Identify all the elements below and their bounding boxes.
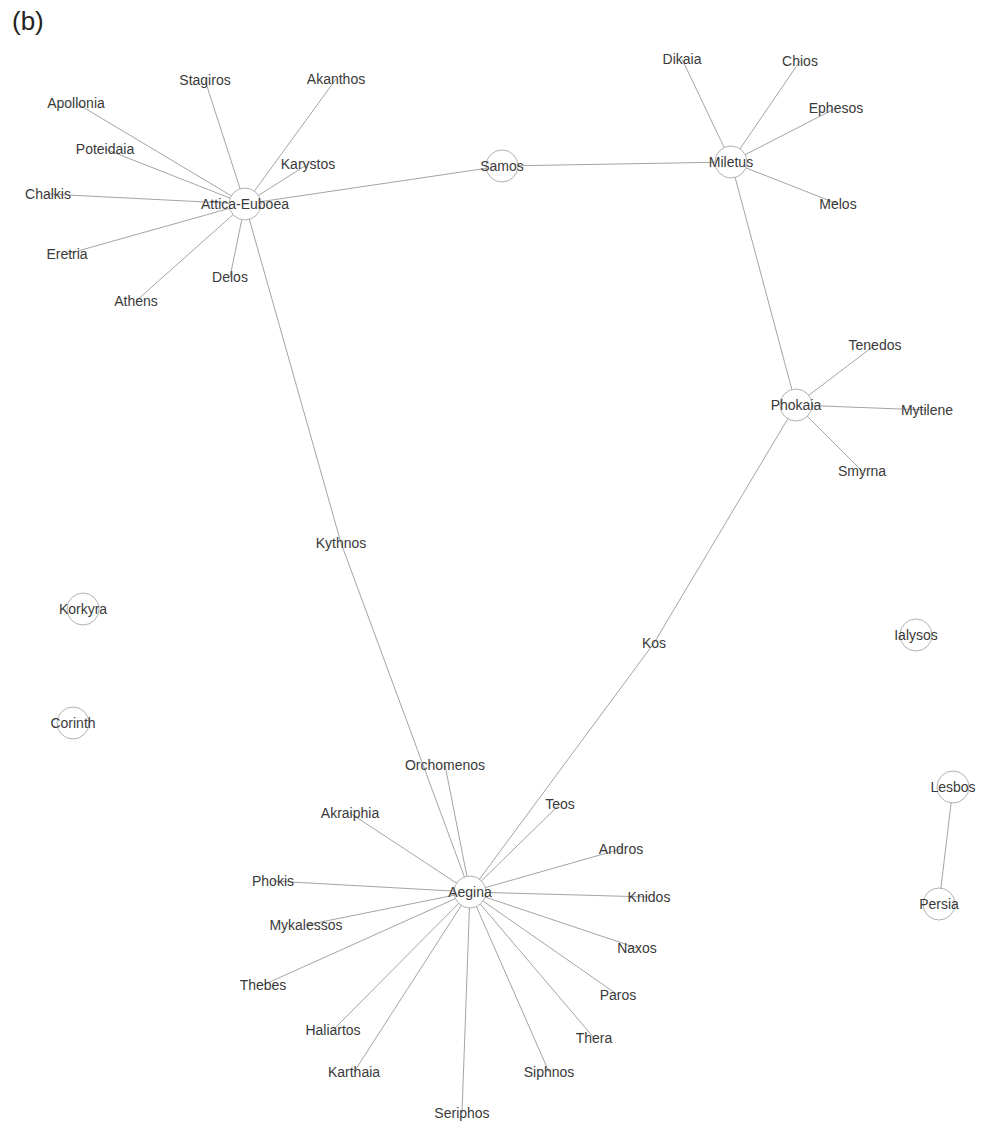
node-siphnos[interactable]: Siphnos xyxy=(524,1064,575,1080)
node-label: Siphnos xyxy=(524,1064,575,1080)
node-label: Phokaia xyxy=(771,397,822,413)
node-label: Chios xyxy=(782,53,818,69)
edge-lesbos-persia xyxy=(939,787,953,904)
node-chios[interactable]: Chios xyxy=(782,53,818,69)
node-tenedos[interactable]: Tenedos xyxy=(849,337,902,353)
node-label: Chalkis xyxy=(25,186,71,202)
node-ialysos[interactable]: Ialysos xyxy=(894,619,938,651)
edge-aegina-thebes xyxy=(263,892,470,985)
edge-kythnos-aegina xyxy=(341,543,470,892)
node-label: Korkyra xyxy=(59,601,107,617)
node-label: Mytilene xyxy=(901,402,953,418)
node-knidos[interactable]: Knidos xyxy=(628,889,671,905)
node-label: Melos xyxy=(819,196,856,212)
node-stagiros[interactable]: Stagiros xyxy=(179,72,230,88)
node-label: Ialysos xyxy=(894,627,938,643)
node-label: Delos xyxy=(212,269,248,285)
node-thera[interactable]: Thera xyxy=(576,1030,613,1046)
node-label: Persia xyxy=(919,896,959,912)
node-label: Akanthos xyxy=(307,71,365,87)
edge-samos-miletus xyxy=(502,162,731,166)
node-label: Athens xyxy=(114,293,158,309)
node-eretria[interactable]: Eretria xyxy=(46,246,87,262)
node-smyrna[interactable]: Smyrna xyxy=(838,463,886,479)
node-label: Tenedos xyxy=(849,337,902,353)
edge-aegina-haliartos xyxy=(333,892,470,1030)
node-teos[interactable]: Teos xyxy=(545,796,575,812)
node-paros[interactable]: Paros xyxy=(600,987,637,1003)
edge-aegina-akraiphia xyxy=(350,813,470,892)
node-label: Samos xyxy=(480,158,524,174)
node-ephesos[interactable]: Ephesos xyxy=(809,100,863,116)
edge-miletus-chios xyxy=(731,61,800,162)
node-label: Andros xyxy=(599,841,643,857)
node-persia[interactable]: Persia xyxy=(919,888,959,920)
node-apollonia[interactable]: Apollonia xyxy=(47,95,105,111)
node-chalkis[interactable]: Chalkis xyxy=(25,186,71,202)
edge-attica-euboea-kythnos xyxy=(245,204,341,543)
node-akraiphia[interactable]: Akraiphia xyxy=(321,805,380,821)
node-karystos[interactable]: Karystos xyxy=(281,156,335,172)
node-label: Kos xyxy=(642,635,666,651)
node-poteidaia[interactable]: Poteidaia xyxy=(76,141,135,157)
node-label: Phokis xyxy=(252,873,294,889)
edge-aegina-karthaia xyxy=(354,892,470,1072)
network-graph: Attica-EuboeaSamosMiletusPhokaiaAeginaKo… xyxy=(0,0,998,1142)
node-akanthos[interactable]: Akanthos xyxy=(307,71,365,87)
node-label: Dikaia xyxy=(663,51,702,67)
node-label: Smyrna xyxy=(838,463,886,479)
edge-attica-euboea-akanthos xyxy=(245,79,336,204)
node-naxos[interactable]: Naxos xyxy=(617,940,657,956)
edge-attica-euboea-stagiros xyxy=(205,80,245,204)
node-phokis[interactable]: Phokis xyxy=(252,873,294,889)
node-orchomenos[interactable]: Orchomenos xyxy=(405,757,485,773)
node-phokaia[interactable]: Phokaia xyxy=(771,389,822,421)
node-kythnos[interactable]: Kythnos xyxy=(316,535,367,551)
node-dikaia[interactable]: Dikaia xyxy=(663,51,702,67)
edge-phokaia-kos xyxy=(654,405,796,643)
node-label: Akraiphia xyxy=(321,805,380,821)
node-label: Orchomenos xyxy=(405,757,485,773)
node-label: Haliartos xyxy=(305,1022,360,1038)
edges-layer xyxy=(48,59,953,1113)
node-delos[interactable]: Delos xyxy=(212,269,248,285)
node-label: Karystos xyxy=(281,156,335,172)
node-label: Thebes xyxy=(240,977,287,993)
node-label: Poteidaia xyxy=(76,141,135,157)
node-lesbos[interactable]: Lesbos xyxy=(930,771,975,803)
node-label: Corinth xyxy=(50,715,95,731)
node-label: Miletus xyxy=(709,154,753,170)
node-melos[interactable]: Melos xyxy=(819,196,856,212)
node-label: Naxos xyxy=(617,940,657,956)
node-thebes[interactable]: Thebes xyxy=(240,977,287,993)
node-label: Seriphos xyxy=(434,1105,489,1121)
edge-aegina-knidos xyxy=(470,892,649,897)
node-haliartos[interactable]: Haliartos xyxy=(305,1022,360,1038)
node-miletus[interactable]: Miletus xyxy=(709,146,753,178)
node-seriphos[interactable]: Seriphos xyxy=(434,1105,489,1121)
node-kos[interactable]: Kos xyxy=(642,635,666,651)
node-attica-euboea[interactable]: Attica-Euboea xyxy=(201,188,289,220)
node-label: Karthaia xyxy=(328,1064,380,1080)
node-label: Knidos xyxy=(628,889,671,905)
node-label: Kythnos xyxy=(316,535,367,551)
node-label: Stagiros xyxy=(179,72,230,88)
node-andros[interactable]: Andros xyxy=(599,841,643,857)
node-samos[interactable]: Samos xyxy=(480,150,524,182)
node-athens[interactable]: Athens xyxy=(114,293,158,309)
node-label: Teos xyxy=(545,796,575,812)
node-label: Ephesos xyxy=(809,100,863,116)
edge-aegina-orchomenos xyxy=(445,765,470,892)
node-mytilene[interactable]: Mytilene xyxy=(901,402,953,418)
node-label: Paros xyxy=(600,987,637,1003)
edge-attica-euboea-athens xyxy=(136,204,245,301)
node-korkyra[interactable]: Korkyra xyxy=(59,593,107,625)
node-label: Thera xyxy=(576,1030,613,1046)
node-mykalessos[interactable]: Mykalessos xyxy=(269,917,342,933)
node-label: Aegina xyxy=(448,884,492,900)
node-corinth[interactable]: Corinth xyxy=(50,707,95,739)
node-label: Mykalessos xyxy=(269,917,342,933)
node-label: Eretria xyxy=(46,246,87,262)
node-label: Apollonia xyxy=(47,95,105,111)
node-karthaia[interactable]: Karthaia xyxy=(328,1064,380,1080)
